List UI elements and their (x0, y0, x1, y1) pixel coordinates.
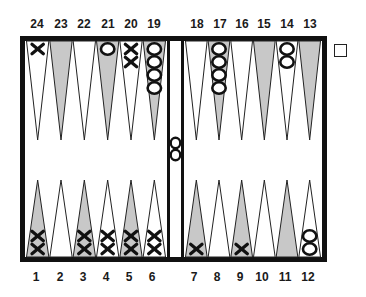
doubling-cube[interactable] (334, 44, 347, 57)
frame-right (322, 36, 327, 262)
checker-o-point-14[interactable] (280, 56, 293, 68)
checker-o-point-19[interactable] (148, 82, 161, 94)
checker-o-point-19[interactable] (148, 69, 161, 81)
checker-o-point-17[interactable] (212, 56, 225, 68)
checker-o-point-17[interactable] (212, 69, 225, 81)
checker-o-point-12[interactable] (303, 243, 316, 255)
frame-bottom (20, 257, 327, 262)
frame-left (20, 36, 25, 262)
checker-o-point-17[interactable] (212, 43, 225, 55)
checker-o-point-19[interactable] (148, 56, 161, 68)
checker-o-point-12[interactable] (303, 230, 316, 242)
checker-o-bar[interactable] (171, 150, 181, 160)
bar-left-edge (167, 36, 170, 262)
checker-o-point-21[interactable] (101, 43, 114, 55)
backgammon-board (0, 0, 366, 297)
checker-o-point-17[interactable] (212, 82, 225, 94)
checker-o-point-19[interactable] (148, 43, 161, 55)
frame-top (20, 36, 327, 41)
checker-o-bar[interactable] (171, 138, 181, 148)
checker-o-point-14[interactable] (280, 43, 293, 55)
bar-right-edge (181, 36, 184, 262)
